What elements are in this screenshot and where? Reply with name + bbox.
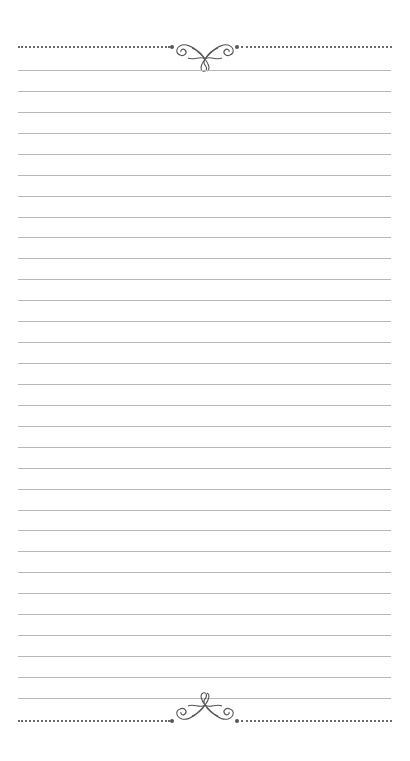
ruled-line: [18, 363, 391, 364]
ruled-line: [18, 572, 391, 573]
ruled-line: [18, 593, 391, 594]
ruled-line: [18, 384, 391, 385]
ruled-line: [18, 635, 391, 636]
flourish-ornament-flipped-icon: [172, 691, 238, 725]
ruled-line: [18, 175, 391, 176]
ruled-line: [18, 614, 391, 615]
ruled-line: [18, 530, 391, 531]
ruled-line: [18, 133, 391, 134]
bottom-divider-dot-right: [235, 719, 239, 723]
ruled-line: [18, 426, 391, 427]
ruled-line: [18, 342, 391, 343]
ruled-line: [18, 321, 391, 322]
ruled-line: [18, 656, 391, 657]
ruled-line: [18, 112, 391, 113]
ruled-line: [18, 237, 391, 238]
ruled-line: [18, 405, 391, 406]
ruled-line: [18, 677, 391, 678]
ruled-line: [18, 468, 391, 469]
ruled-line: [18, 91, 391, 92]
ruled-line: [18, 510, 391, 511]
ruled-line: [18, 70, 391, 71]
ruled-line: [18, 279, 391, 280]
notepaper-page: [0, 0, 410, 761]
ruled-line: [18, 196, 391, 197]
ruled-line: [18, 489, 391, 490]
bottom-dotted-divider-left: [18, 720, 170, 722]
bottom-dotted-divider-right: [241, 720, 392, 722]
ruled-line: [18, 551, 391, 552]
bottom-divider-dot-left: [170, 719, 174, 723]
ruled-line: [18, 154, 391, 155]
ruled-line: [18, 217, 391, 218]
ruled-lines: [0, 0, 410, 761]
ruled-line: [18, 447, 391, 448]
ruled-line: [18, 258, 391, 259]
ruled-line: [18, 300, 391, 301]
